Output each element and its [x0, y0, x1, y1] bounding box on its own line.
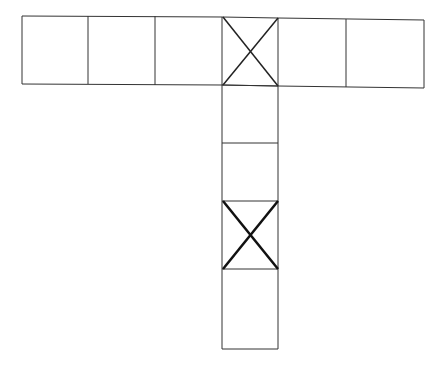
- net-diagram: [0, 0, 442, 365]
- cross-mark-column: [223, 201, 278, 269]
- top-row-outline: [22, 16, 424, 88]
- column-outline: [222, 85, 278, 349]
- cross-mark-top: [223, 17, 278, 86]
